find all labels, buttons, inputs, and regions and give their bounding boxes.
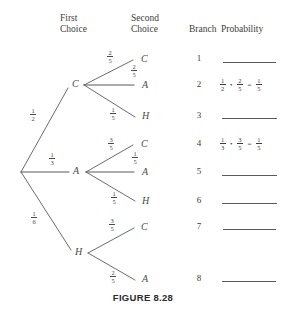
probability-label-a-to-h: 1 5	[107, 190, 121, 205]
probability-label-h-to-c: 3 5	[105, 217, 119, 232]
branch-number-4: 4	[192, 138, 206, 148]
branch-number-8: 8	[192, 273, 206, 283]
leaf-node-h-c: C	[141, 221, 148, 232]
fraction-first-prob-4: 1 3	[218, 136, 227, 151]
probability-blank-line-3[interactable]	[222, 118, 277, 119]
node-first-choice-a: A	[73, 165, 79, 176]
tree-branch-lines	[0, 0, 286, 313]
leaf-node-h-a: A	[142, 273, 148, 284]
branch-number-5: 5	[192, 166, 206, 176]
branch-number-1: 1	[192, 53, 206, 63]
probability-label-h-to-a: 2 5	[106, 269, 120, 284]
probability-tree-figure: First Choice Second Choice Branch Probab…	[0, 0, 286, 313]
leaf-node-c-c: C	[141, 53, 148, 64]
equals-operator: =	[246, 140, 252, 148]
multiply-operator: •	[229, 81, 233, 89]
branch-number-2: 2	[192, 79, 206, 89]
branch-number-6: 6	[192, 195, 206, 205]
probability-expression-2: 1 2 • 2 5 = 1 5	[218, 77, 263, 92]
probability-label-a-to-c: 3 5	[104, 136, 118, 151]
figure-caption: FIGURE 8.28	[0, 292, 286, 303]
probability-label-root-to-a: 1 3	[45, 151, 59, 166]
leaf-node-a-c: C	[141, 138, 148, 149]
fraction-result-prob-2: 1 5	[254, 77, 263, 92]
column-header-branch: Branch	[189, 24, 216, 35]
leaf-node-a-h: H	[142, 195, 149, 206]
column-header-second-choice: Second Choice	[131, 13, 159, 35]
column-header-first-choice: First Choice	[60, 13, 87, 35]
probability-label-c-to-a: 2 5	[127, 63, 141, 78]
probability-label-root-to-h: 1 6	[27, 210, 41, 225]
node-first-choice-h: H	[75, 246, 82, 257]
probability-label-root-to-c: 1 2	[26, 107, 40, 122]
probability-blank-line-1[interactable]	[223, 62, 276, 63]
fraction-result-prob-4: 1 5	[254, 136, 263, 151]
leaf-node-c-h: H	[142, 110, 149, 121]
column-header-probability: Probability	[221, 24, 263, 35]
branch-number-7: 7	[192, 221, 206, 231]
probability-label-a-to-a: 1 5	[128, 150, 142, 165]
probability-blank-line-8[interactable]	[222, 281, 276, 282]
probability-expression-4: 1 3 • 3 5 = 1 5	[218, 136, 263, 151]
probability-label-c-to-h: 1 5	[106, 106, 120, 121]
branch-number-3: 3	[192, 110, 206, 120]
equals-operator: =	[246, 81, 252, 89]
fraction-first-prob-2: 1 2	[218, 77, 227, 92]
fraction-second-prob-4: 3 5	[235, 136, 244, 151]
leaf-node-c-a: A	[142, 79, 148, 90]
probability-label-c-to-c: 2 5	[103, 49, 117, 64]
probability-blank-line-7[interactable]	[223, 229, 276, 230]
fraction-second-prob-2: 2 5	[235, 77, 244, 92]
leaf-node-a-a: A	[142, 166, 148, 177]
probability-blank-line-6[interactable]	[222, 203, 277, 204]
multiply-operator: •	[229, 140, 233, 148]
probability-blank-line-5[interactable]	[222, 175, 277, 176]
node-first-choice-c: C	[72, 78, 79, 89]
